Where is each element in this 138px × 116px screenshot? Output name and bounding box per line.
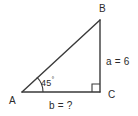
geometry-figure: B A C a = 6 b = ? 45°: [0, 0, 138, 116]
hypotenuse-line-ab: [22, 20, 100, 92]
right-angle-marker-icon: [92, 84, 100, 92]
vertex-label-b: B: [99, 4, 106, 14]
degree-symbol-icon: °: [51, 76, 54, 83]
side-length-label-a: a = 6: [106, 57, 130, 67]
vertex-label-a: A: [9, 96, 16, 106]
side-length-label-b: b = ?: [49, 101, 73, 111]
angle-measure-label-a: 45°: [41, 79, 54, 88]
angle-measure-value: 45: [41, 78, 51, 88]
vertex-label-c: C: [108, 90, 115, 100]
